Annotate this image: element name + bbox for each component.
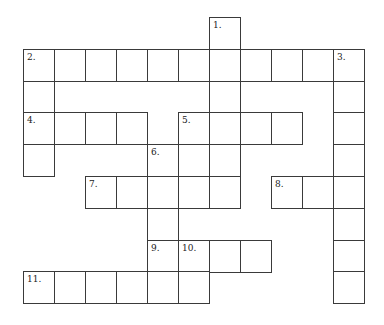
crossword-cell[interactable]	[209, 81, 241, 114]
clue-number: 9.	[151, 243, 160, 253]
crossword-cell[interactable]	[85, 271, 117, 304]
crossword-cell[interactable]	[116, 176, 148, 209]
crossword-cell[interactable]: 5.	[178, 112, 210, 145]
clue-number: 1.	[213, 20, 222, 30]
crossword-cell[interactable]: 9.	[147, 240, 179, 273]
crossword-cell[interactable]	[240, 49, 272, 82]
crossword-cell[interactable]: 6.	[147, 144, 179, 177]
clue-number: 2.	[27, 52, 36, 62]
crossword-cell[interactable]	[147, 271, 179, 304]
crossword-cell[interactable]	[147, 176, 179, 209]
crossword-cell[interactable]	[209, 176, 241, 209]
crossword-cell[interactable]: 4.	[23, 112, 55, 145]
clue-number: 8.	[275, 179, 284, 189]
crossword-cell[interactable]	[209, 112, 241, 145]
crossword-cell[interactable]: 2.	[23, 49, 55, 82]
clue-number: 6.	[151, 147, 160, 157]
crossword-cell[interactable]: 1.	[209, 17, 241, 50]
crossword-cell[interactable]	[333, 176, 365, 209]
crossword-cell[interactable]	[147, 208, 179, 241]
crossword-cell[interactable]	[333, 208, 365, 241]
crossword-cell[interactable]	[209, 49, 241, 82]
clue-number: 7.	[89, 179, 98, 189]
crossword-cell[interactable]: 11.	[23, 271, 55, 304]
crossword-cell[interactable]	[209, 144, 241, 177]
clue-number: 10.	[182, 243, 196, 253]
crossword-cell[interactable]: 7.	[85, 176, 117, 209]
clue-number: 3.	[337, 52, 346, 62]
crossword-cell[interactable]	[85, 49, 117, 82]
crossword-cell[interactable]	[333, 81, 365, 114]
crossword-cell[interactable]	[85, 112, 117, 145]
crossword-cell[interactable]	[23, 81, 55, 114]
crossword-grid: 1.2.3.4.5.6.7.8.9.10.11.	[0, 0, 384, 325]
crossword-cell[interactable]	[302, 49, 334, 82]
crossword-cell[interactable]	[147, 49, 179, 82]
crossword-cell[interactable]	[178, 176, 210, 209]
crossword-cell[interactable]	[209, 240, 241, 273]
crossword-cell[interactable]	[240, 240, 272, 273]
crossword-cell[interactable]	[116, 112, 148, 145]
crossword-cell[interactable]: 8.	[271, 176, 303, 209]
crossword-cell[interactable]: 10.	[178, 240, 210, 273]
crossword-cell[interactable]	[178, 49, 210, 82]
crossword-cell[interactable]: 3.	[333, 49, 365, 82]
crossword-cell[interactable]	[271, 112, 303, 145]
crossword-cell[interactable]	[116, 49, 148, 82]
crossword-cell[interactable]	[23, 144, 55, 177]
clue-number: 5.	[182, 115, 191, 125]
crossword-cell[interactable]	[333, 144, 365, 177]
crossword-cell[interactable]	[333, 271, 365, 304]
crossword-cell[interactable]	[178, 144, 210, 177]
crossword-cell[interactable]	[333, 112, 365, 145]
crossword-cell[interactable]	[271, 49, 303, 82]
crossword-cell[interactable]	[54, 49, 86, 82]
crossword-cell[interactable]	[54, 271, 86, 304]
crossword-cell[interactable]	[333, 240, 365, 273]
crossword-cell[interactable]	[54, 112, 86, 145]
crossword-cell[interactable]	[116, 271, 148, 304]
crossword-cell[interactable]	[178, 271, 210, 304]
crossword-cell[interactable]	[240, 112, 272, 145]
crossword-cell[interactable]	[302, 176, 334, 209]
clue-number: 4.	[27, 115, 36, 125]
clue-number: 11.	[27, 274, 41, 284]
